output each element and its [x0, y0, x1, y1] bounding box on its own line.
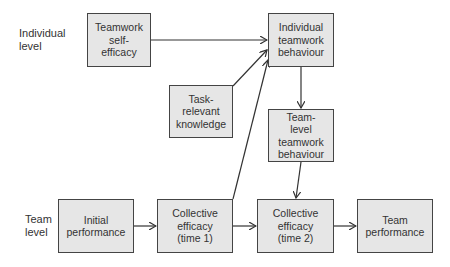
node-individual-teamwork-behaviour: Individual teamwork behaviour [268, 13, 334, 67]
node-team-level-teamwork-behaviour: Team- level teamwork behaviour [268, 109, 334, 162]
node-label: Team performance [366, 214, 425, 239]
node-collective-efficacy-time2: Collective efficacy (time 2) [257, 199, 334, 253]
node-label: Team- level teamwork behaviour [278, 111, 324, 161]
node-label: Task- relevant knowledge [176, 93, 226, 131]
node-initial-performance: Initial performance [58, 199, 134, 253]
node-label: Initial performance [67, 214, 126, 239]
team-level-label: Team level [25, 213, 52, 239]
edge-knowledge-to-behaviour [233, 50, 267, 86]
node-label: Collective efficacy (time 2) [273, 207, 319, 245]
edge-teamlevel-to-ce2 [296, 162, 301, 198]
node-label: Individual teamwork behaviour [278, 21, 324, 59]
individual-level-label: Individual level [19, 27, 65, 53]
node-label: Teamwork self- efficacy [95, 21, 143, 59]
node-task-relevant-knowledge: Task- relevant knowledge [169, 85, 233, 138]
node-collective-efficacy-time1: Collective efficacy (time 1) [157, 199, 233, 253]
node-teamwork-self-efficacy: Teamwork self- efficacy [87, 13, 151, 67]
node-label: Collective efficacy (time 1) [172, 207, 218, 245]
node-team-performance: Team performance [357, 199, 433, 253]
